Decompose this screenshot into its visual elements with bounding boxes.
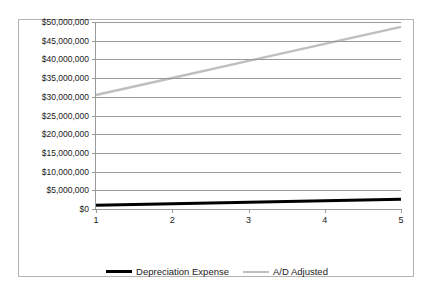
x-axis-tick-label: 3 xyxy=(234,215,264,226)
y-axis-tick xyxy=(92,172,96,173)
x-axis-tick-label: 1 xyxy=(81,215,111,226)
legend-swatch xyxy=(243,271,269,273)
y-axis-tick xyxy=(92,116,96,117)
y-axis-tick-label: $25,000,000 xyxy=(42,111,89,121)
legend-label: Depreciation Expense xyxy=(136,266,229,277)
legend-entry: Depreciation Expense xyxy=(106,266,229,277)
gridline xyxy=(96,116,401,117)
x-axis-tick xyxy=(325,209,326,213)
gridline xyxy=(96,190,401,191)
y-axis-tick-label: $10,000,000 xyxy=(42,167,89,177)
gridline xyxy=(96,41,401,42)
gridline xyxy=(96,59,401,60)
x-axis-tick xyxy=(172,209,173,213)
gridline xyxy=(96,97,401,98)
gridline xyxy=(96,78,401,79)
y-axis-tick xyxy=(92,97,96,98)
chart-legend: Depreciation ExpenseA/D Adjusted xyxy=(19,266,415,277)
y-axis-tick xyxy=(92,78,96,79)
x-axis-tick xyxy=(401,209,402,213)
series-line xyxy=(96,27,401,95)
y-axis-tick-label: $0 xyxy=(80,204,89,214)
x-axis-tick-label: 5 xyxy=(386,215,416,226)
y-axis-tick xyxy=(92,22,96,23)
y-axis-tick-label: $15,000,000 xyxy=(42,148,89,158)
gridline xyxy=(96,22,401,23)
x-axis-tick-label: 2 xyxy=(157,215,187,226)
plot-area: 12345 xyxy=(96,22,401,209)
legend-label: A/D Adjusted xyxy=(273,266,328,277)
y-axis-tick-label: $5,000,000 xyxy=(46,185,89,195)
chart-container: $50,000,000$45,000,000$40,000,000$35,000… xyxy=(18,19,414,277)
y-axis-tick xyxy=(92,190,96,191)
gridline xyxy=(96,134,401,135)
x-axis-tick xyxy=(249,209,250,213)
gridline xyxy=(96,172,401,173)
y-axis-tick-label: $50,000,000 xyxy=(42,17,89,27)
y-axis-tick-label: $40,000,000 xyxy=(42,54,89,64)
y-axis-tick xyxy=(92,59,96,60)
y-axis-tick-label: $30,000,000 xyxy=(42,92,89,102)
series-line xyxy=(96,199,401,205)
y-axis-tick xyxy=(92,134,96,135)
gridline xyxy=(96,153,401,154)
legend-entry: A/D Adjusted xyxy=(243,266,328,277)
chart-plot-wrapper: $50,000,000$45,000,000$40,000,000$35,000… xyxy=(19,20,415,278)
y-axis-tick-label: $20,000,000 xyxy=(42,129,89,139)
legend-swatch xyxy=(106,270,132,273)
y-axis-labels: $50,000,000$45,000,000$40,000,000$35,000… xyxy=(19,20,89,278)
y-axis-tick xyxy=(92,41,96,42)
x-axis-tick xyxy=(96,209,97,213)
y-axis-tick-label: $35,000,000 xyxy=(42,73,89,83)
y-axis-tick-label: $45,000,000 xyxy=(42,36,89,46)
x-axis-tick-label: 4 xyxy=(310,215,340,226)
y-axis-tick xyxy=(92,153,96,154)
